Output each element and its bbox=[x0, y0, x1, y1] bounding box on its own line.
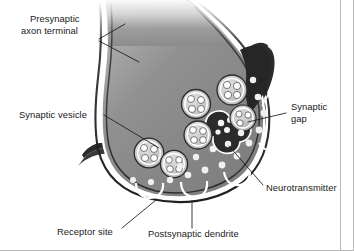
neurotransmitter-dot bbox=[255, 94, 262, 101]
neurotransmitter-dot bbox=[256, 127, 263, 134]
label-neurotransmitter: Neurotransmitter bbox=[266, 182, 337, 193]
label-synaptic-vesicle: Synaptic vesicle bbox=[19, 109, 87, 120]
neurotransmitter-dot bbox=[238, 130, 244, 136]
synaptic-vesicle bbox=[182, 90, 211, 119]
synaptic-vesicle bbox=[230, 105, 256, 131]
neurotransmitter-dot bbox=[130, 177, 136, 183]
neurotransmitter-dot bbox=[193, 154, 199, 160]
label-synaptic-gap-line2: gap bbox=[291, 113, 307, 124]
neurotransmitter-dot bbox=[210, 146, 217, 153]
label-synaptic-gap-line1: Synaptic bbox=[291, 101, 328, 112]
neurotransmitter-dot bbox=[202, 167, 209, 174]
synaptic-vesicle bbox=[217, 75, 247, 105]
diagram-canvas: Presynaptic axon terminal Synaptic vesic… bbox=[0, 0, 354, 251]
synaptic-vesicle bbox=[160, 150, 187, 177]
label-presynaptic-line2: axon terminal bbox=[21, 25, 78, 36]
neurotransmitter-dot bbox=[250, 77, 256, 83]
neurotransmitter-dot bbox=[219, 162, 226, 169]
label-presynaptic-line1: Presynaptic bbox=[30, 13, 80, 24]
neurotransmitter-dot bbox=[246, 140, 253, 147]
neurotransmitter-dot bbox=[225, 141, 231, 147]
neurotransmitter-dot bbox=[148, 179, 154, 185]
synapse-diagram-figure: Presynaptic axon terminal Synaptic vesic… bbox=[0, 0, 354, 251]
neurotransmitter-dot bbox=[185, 172, 192, 179]
label-receptor-site: Receptor site bbox=[57, 226, 113, 237]
synaptic-vesicle bbox=[184, 121, 212, 149]
synaptic-vesicle bbox=[134, 138, 164, 168]
neurotransmitter-dot bbox=[261, 110, 268, 117]
label-postsynaptic-dendrite: Postsynaptic dendrite bbox=[148, 228, 239, 239]
neurotransmitter-dot bbox=[167, 177, 173, 183]
neurotransmitter-dot bbox=[177, 163, 183, 169]
